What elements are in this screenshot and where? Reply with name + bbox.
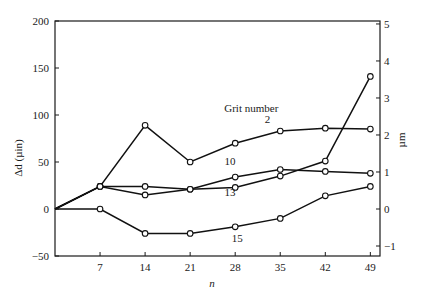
right-tick-label: 3 bbox=[384, 92, 390, 104]
x-tick-label: 42 bbox=[320, 261, 331, 273]
x-tick-label: 28 bbox=[230, 261, 242, 273]
data-point-marker bbox=[277, 173, 283, 179]
series-grit-15 bbox=[55, 184, 373, 237]
left-y-axis-title: Δd (µin) bbox=[12, 139, 25, 177]
x-tick-label: 35 bbox=[275, 261, 287, 273]
data-point-marker bbox=[368, 184, 374, 190]
data-point-marker bbox=[232, 224, 238, 230]
left-tick-label: 200 bbox=[33, 15, 50, 27]
data-point-marker bbox=[142, 231, 148, 237]
x-tick-label: 49 bbox=[365, 261, 377, 273]
data-point-marker bbox=[322, 125, 328, 131]
data-point-marker bbox=[97, 184, 103, 190]
right-tick-label: 4 bbox=[384, 55, 390, 67]
data-point-marker bbox=[187, 231, 193, 237]
data-point-marker bbox=[187, 186, 193, 192]
right-tick-label: 5 bbox=[384, 18, 390, 30]
left-tick-label: 0 bbox=[44, 203, 50, 215]
data-point-marker bbox=[368, 126, 374, 132]
right-tick-label: 1 bbox=[384, 166, 390, 178]
data-point-marker bbox=[322, 169, 328, 175]
data-point-marker bbox=[142, 192, 148, 198]
left-tick-label: −50 bbox=[32, 250, 50, 262]
data-point-marker bbox=[277, 128, 283, 134]
right-tick-label: 0 bbox=[384, 203, 390, 215]
right-y-axis-title: µm bbox=[395, 132, 407, 147]
data-point-marker bbox=[187, 159, 193, 165]
x-tick-label: 21 bbox=[185, 261, 196, 273]
delta-d-label: Δd (µin) bbox=[12, 139, 25, 177]
x-axis: 7142128354249 bbox=[97, 252, 376, 273]
left-tick-label: 100 bbox=[33, 109, 50, 121]
x-axis-title: n bbox=[209, 277, 215, 289]
data-point-marker bbox=[277, 216, 283, 222]
right-tick-label: −1 bbox=[384, 240, 396, 252]
series-grit-13 bbox=[55, 74, 373, 209]
plot-frame bbox=[55, 21, 380, 256]
left-tick-label: 50 bbox=[38, 156, 50, 168]
data-point-marker bbox=[232, 140, 238, 146]
data-point-marker bbox=[232, 174, 238, 180]
annotation-label: 10 bbox=[225, 155, 237, 167]
annotation-label: 13 bbox=[225, 186, 237, 198]
right-tick-label: 2 bbox=[384, 129, 390, 141]
series-line bbox=[55, 170, 370, 209]
line-chart: −50050100150200 −1012345 7142128354249 G… bbox=[0, 0, 426, 294]
plot-border bbox=[55, 21, 380, 256]
data-point-marker bbox=[142, 184, 148, 190]
x-tick-label: 7 bbox=[97, 261, 103, 273]
data-point-marker bbox=[277, 167, 283, 173]
data-point-marker bbox=[97, 206, 103, 212]
annotation-label: 2 bbox=[265, 113, 271, 125]
data-point-marker bbox=[142, 123, 148, 129]
annotation-label: 15 bbox=[232, 232, 244, 244]
annotation-label: Grit number bbox=[224, 102, 278, 114]
x-tick-label: 14 bbox=[140, 261, 152, 273]
series-line bbox=[55, 76, 370, 209]
left-tick-label: 150 bbox=[33, 62, 50, 74]
data-point-marker bbox=[322, 193, 328, 199]
series-layer bbox=[55, 74, 373, 237]
data-point-marker bbox=[368, 74, 374, 80]
data-point-marker bbox=[368, 170, 374, 176]
annotation-layer: Grit number2101315 bbox=[224, 102, 278, 244]
data-point-marker bbox=[322, 158, 328, 164]
right-y-axis: −1012345 bbox=[376, 18, 396, 252]
